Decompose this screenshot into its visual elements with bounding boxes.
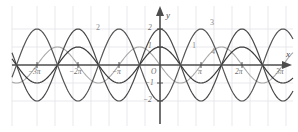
trig-graph-figure: x y O −3π −2π −π π 2π 3π 2 1 −1 −2 1 2 3…	[0, 0, 298, 132]
plot-canvas	[0, 0, 298, 132]
vertical-gridlines	[12, 6, 286, 126]
